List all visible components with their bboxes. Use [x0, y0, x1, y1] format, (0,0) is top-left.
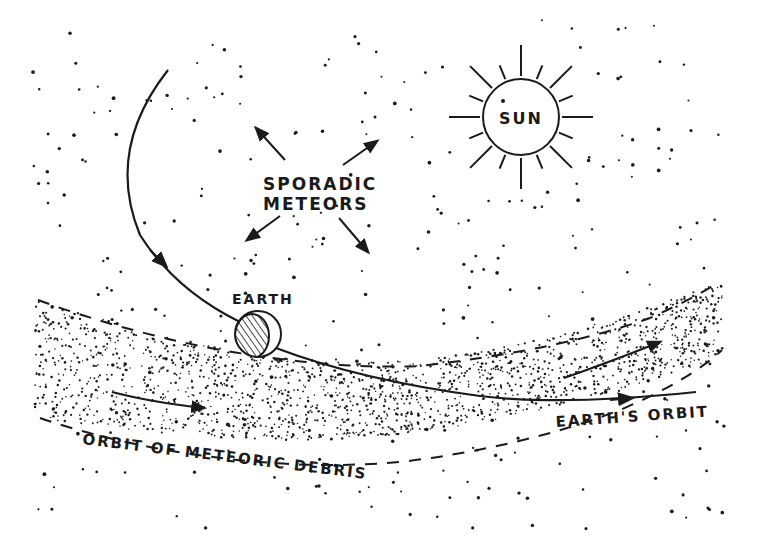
sporadic-meteors-label-line1: SPORADIC — [263, 174, 377, 194]
diagram-canvas: SUN SPORADIC METEORS EARTH EARTH'S ORBIT… — [0, 0, 760, 544]
meteor-diagram: SUN SPORADIC METEORS EARTH EARTH'S ORBIT… — [0, 0, 760, 544]
earths-orbit-path — [128, 70, 697, 400]
sporadic-meteors-label-line2: METEORS — [263, 194, 369, 214]
sun-label: SUN — [499, 109, 543, 128]
debris-orbit-label: ORBIT OF METEORIC DEBRIS — [82, 430, 369, 483]
earths-orbit-label: EARTH'S ORBIT — [555, 402, 710, 431]
earth-icon — [235, 311, 281, 358]
debris-direction-arrows — [112, 342, 660, 408]
earth-label: EARTH — [232, 291, 294, 307]
